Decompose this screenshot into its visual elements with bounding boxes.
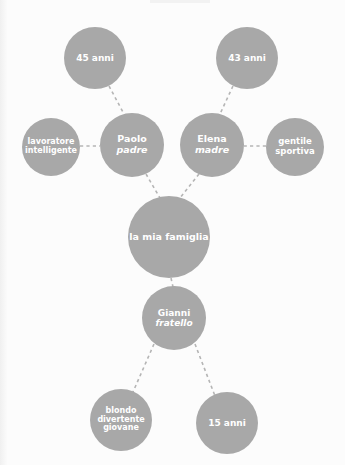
node-padre_age[interactable]: 45 anni: [64, 27, 126, 89]
node-madre_traits[interactable]: gentilesportiva: [266, 118, 324, 176]
page-top-mark: [150, 0, 210, 3]
node-label: padre: [116, 145, 147, 156]
connector-madre-to-famiglia: [180, 174, 199, 198]
node-label: madre: [195, 145, 229, 156]
page-gutter-shading: [0, 0, 7, 465]
connector-padre-to-famiglia: [146, 174, 160, 198]
node-famiglia[interactable]: la mia famiglia: [128, 196, 210, 278]
node-label: intelligente: [25, 147, 77, 156]
node-label: 15 anni: [208, 418, 246, 428]
connector-padre_age-to-padre: [109, 86, 124, 114]
node-fratello_age[interactable]: 15 anni: [196, 392, 258, 454]
node-madre_age[interactable]: 43 anni: [216, 27, 278, 89]
connector-fratello-to-fratello_age: [195, 344, 215, 396]
node-label: fratello: [155, 318, 192, 328]
node-fratello[interactable]: Giannifratello: [142, 286, 206, 350]
node-padre[interactable]: Paolopadre: [100, 113, 164, 177]
node-label: sportiva: [275, 147, 314, 157]
connector-madre_age-to-madre: [220, 86, 233, 114]
connector-fratello-to-fratello_traits: [133, 344, 154, 392]
node-madre[interactable]: Elenamadre: [180, 113, 244, 177]
node-label: la mia famiglia: [129, 232, 208, 243]
node-label: 43 anni: [228, 53, 266, 63]
mind-map-canvas: 45 anni43 annilavoratoreintelligentePaol…: [0, 0, 345, 465]
node-label: Gianni: [158, 308, 190, 318]
node-fratello_traits[interactable]: blondodivertentegiovane: [90, 389, 152, 451]
node-padre_traits[interactable]: lavoratoreintelligente: [22, 118, 80, 176]
node-label: 45 anni: [76, 53, 114, 63]
node-label: giovane: [103, 424, 139, 433]
